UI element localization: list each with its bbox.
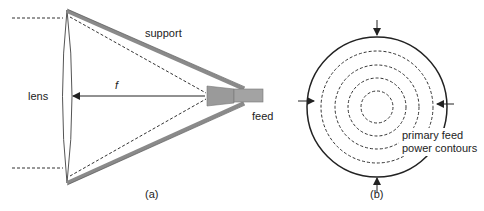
power-contour-3 bbox=[348, 78, 406, 136]
contour-label-line2: power contours bbox=[402, 142, 478, 154]
upper-support-bar bbox=[67, 11, 244, 89]
caption-b: (b) bbox=[370, 188, 383, 200]
caption-a: (a) bbox=[145, 188, 158, 200]
lower-support-bar bbox=[67, 103, 244, 183]
contour-label-line1: primary feed bbox=[402, 129, 463, 141]
lens-shape bbox=[63, 10, 73, 183]
lower-ray-dashed-line bbox=[70, 99, 206, 176]
feed-waveguide bbox=[234, 89, 263, 102]
lens-label: lens bbox=[28, 90, 49, 102]
focal-length-label: f bbox=[115, 79, 119, 91]
figure-a: f lens support feed (a) bbox=[12, 9, 273, 200]
figure-b: primary feed power contours (b) bbox=[298, 20, 481, 200]
power-contour-4 bbox=[361, 91, 393, 123]
feed-label: feed bbox=[252, 110, 273, 122]
support-label: support bbox=[145, 27, 182, 39]
lens-antenna-diagram: f lens support feed (a) primary feed pow… bbox=[0, 0, 484, 211]
lower-support-edge bbox=[67, 105, 245, 185]
upper-ray-dashed-line bbox=[70, 17, 206, 93]
upper-support-edge bbox=[67, 9, 245, 87]
feed-horn bbox=[207, 86, 234, 106]
